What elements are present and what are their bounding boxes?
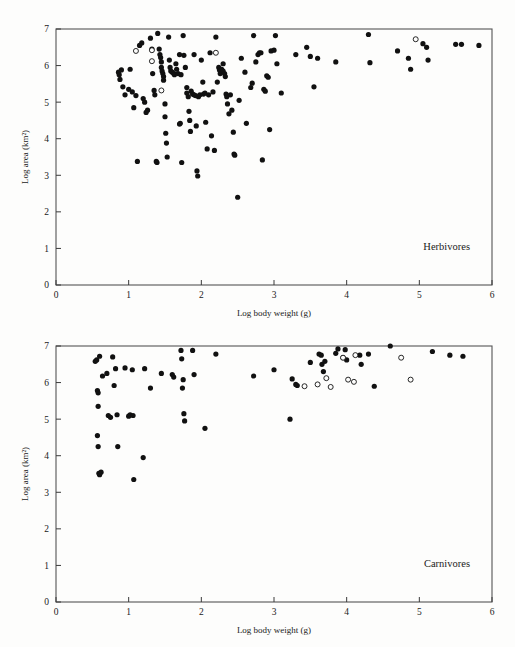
data-point-filled	[186, 94, 191, 99]
data-point-filled	[128, 67, 133, 72]
panel-carnivores: 012345601234567Log body weight (g)Log ar…	[0, 324, 515, 647]
data-point-filled	[181, 53, 186, 58]
data-point-filled	[188, 129, 193, 134]
data-point-filled	[200, 79, 205, 84]
data-point-filled	[266, 75, 271, 80]
data-point-filled	[476, 43, 481, 48]
data-point-filled	[117, 72, 122, 77]
data-point-filled	[333, 59, 338, 64]
data-point-open	[328, 384, 333, 389]
data-point-filled	[142, 100, 147, 105]
x-tick-label: 1	[126, 290, 131, 300]
data-point-filled	[152, 88, 157, 93]
data-point-filled	[96, 390, 101, 395]
data-point-filled	[221, 61, 226, 66]
data-point-filled	[190, 348, 195, 353]
data-point-filled	[406, 56, 411, 61]
x-tick-label: 6	[490, 290, 495, 300]
data-point-filled	[184, 85, 189, 90]
panel-annotation: Carnivores	[424, 558, 470, 569]
data-point-filled	[308, 54, 313, 59]
data-point-filled	[152, 92, 157, 97]
data-point-filled	[120, 84, 125, 89]
data-point-filled	[258, 50, 263, 55]
data-point-filled	[133, 93, 138, 98]
data-point-filled	[122, 365, 127, 370]
data-point-open	[413, 37, 418, 42]
data-point-filled	[308, 360, 313, 365]
data-point-filled	[239, 56, 244, 61]
x-tick-label: 2	[199, 607, 204, 617]
data-point-filled	[167, 57, 172, 62]
data-point-filled	[267, 127, 272, 132]
data-point-open	[346, 377, 351, 382]
data-point-open	[353, 353, 358, 358]
data-point-filled	[183, 65, 188, 70]
data-point-filled	[162, 101, 167, 106]
data-point-filled	[178, 348, 183, 353]
data-point-filled	[232, 153, 237, 158]
data-point-open	[341, 355, 346, 360]
data-point-filled	[425, 57, 430, 62]
data-point-filled	[453, 42, 458, 47]
data-point-open	[302, 384, 307, 389]
data-point-filled	[388, 343, 393, 348]
data-point-filled	[171, 374, 176, 379]
data-point-filled	[173, 61, 178, 66]
data-point-filled	[113, 366, 118, 371]
data-point-filled	[408, 67, 413, 72]
data-point-filled	[157, 47, 162, 52]
x-tick-label: 3	[272, 607, 277, 617]
data-point-filled	[117, 77, 122, 82]
data-point-filled	[130, 413, 135, 418]
y-tick-label: 1	[44, 244, 49, 254]
data-point-filled	[150, 71, 155, 76]
data-point-filled	[194, 168, 199, 173]
data-point-filled	[229, 108, 234, 113]
data-point-filled	[181, 33, 186, 38]
data-point-filled	[315, 56, 320, 61]
data-point-filled	[210, 89, 215, 94]
data-point-filled	[253, 59, 258, 64]
data-point-filled	[179, 356, 184, 361]
data-point-filled	[367, 60, 372, 65]
data-point-open	[149, 48, 154, 53]
data-point-filled	[203, 120, 208, 125]
data-point-filled	[141, 455, 146, 460]
data-point-filled	[115, 444, 120, 449]
data-point-filled	[135, 159, 140, 164]
data-point-filled	[191, 52, 196, 57]
data-point-filled	[195, 173, 200, 178]
y-tick-label: 0	[44, 597, 49, 607]
data-point-filled	[343, 347, 348, 352]
y-tick-label: 5	[44, 415, 49, 425]
data-point-open	[159, 88, 164, 93]
data-point-filled	[366, 32, 371, 37]
data-point-filled	[424, 45, 429, 50]
y-tick-label: 2	[44, 524, 49, 534]
y-tick-label: 7	[44, 24, 49, 34]
x-tick-label: 3	[272, 290, 277, 300]
data-point-filled	[335, 346, 340, 351]
data-point-filled	[279, 90, 284, 95]
data-point-filled	[178, 72, 183, 77]
data-point-filled	[447, 353, 452, 358]
data-point-open	[399, 355, 404, 360]
data-point-open	[213, 50, 218, 55]
data-point-filled	[209, 133, 214, 138]
data-point-filled	[250, 81, 255, 86]
data-point-filled	[122, 92, 127, 97]
data-point-filled	[251, 33, 256, 38]
data-point-filled	[366, 351, 371, 356]
data-point-filled	[181, 411, 186, 416]
y-tick-label: 3	[44, 171, 49, 181]
figure-page: 012345601234567Log body weight (g)Log ar…	[0, 0, 515, 647]
data-point-filled	[228, 92, 233, 97]
data-point-filled	[225, 101, 230, 106]
y-tick-label: 2	[44, 207, 49, 217]
data-point-filled	[131, 105, 136, 110]
data-point-filled	[97, 354, 102, 359]
data-point-filled	[322, 359, 327, 364]
data-point-filled	[207, 50, 212, 55]
data-point-filled	[274, 61, 279, 66]
